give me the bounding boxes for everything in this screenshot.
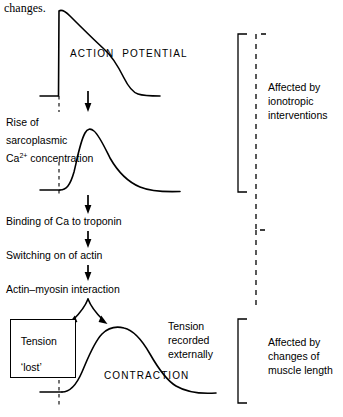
step-switching-actin: Switching on of actin — [6, 249, 102, 262]
page-bleed-text: changes. — [4, 2, 46, 15]
bracket-label-ionotropic-line1: Affected by — [268, 81, 320, 94]
tension-recorded-line3: externally — [168, 348, 213, 361]
step-binding-troponin: Binding of Ca to troponin — [6, 215, 122, 228]
bracket-label-ionotropic-line3: interventions — [268, 109, 328, 122]
bracket-label-length-line3: muscle length — [268, 364, 333, 377]
step-rise-line1: Rise of — [6, 116, 39, 129]
solid-bracket-path-top — [238, 34, 247, 192]
concentration-word: concentration — [27, 152, 93, 164]
arrow-switching-to-interaction — [85, 265, 92, 281]
tension-lost-line1: Tension — [21, 335, 57, 347]
bracket-ionotropic-dashed — [256, 34, 266, 230]
arrow-ap-to-calcium — [85, 91, 92, 112]
arrow-binding-to-switching — [85, 231, 92, 248]
calcium-symbol: Ca — [6, 152, 19, 164]
bracket-label-ionotropic-line2: ionotropic — [268, 95, 314, 108]
bracket-ionotropic-solid — [238, 34, 247, 192]
tension-lost-box: Tension ‘lost’ — [10, 319, 76, 378]
contraction-label: CONTRACTION — [104, 370, 189, 381]
action-potential-label: ACTION POTENTIAL — [70, 48, 188, 59]
step-rise-line3: Ca2+ concentration — [6, 152, 93, 165]
step-rise-line2: sarcoplasmic — [6, 134, 67, 147]
bracket-muscle-length-solid — [238, 319, 247, 403]
tension-recorded-line2: recorded — [168, 334, 209, 347]
dashed-bracket-path — [256, 34, 266, 230]
step-actin-myosin-interaction: Actin–myosin interaction — [6, 283, 120, 296]
tension-recorded-line1: Tension — [168, 320, 204, 333]
solid-bracket-path-bottom — [238, 319, 247, 403]
tension-lost-line2: ‘lost’ — [21, 361, 42, 373]
bracket-label-length-line1: Affected by — [268, 336, 320, 349]
bracket-label-length-line2: changes of — [268, 350, 319, 363]
arrow-calcium-to-binding — [85, 195, 92, 214]
